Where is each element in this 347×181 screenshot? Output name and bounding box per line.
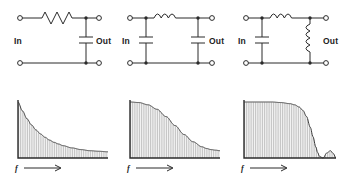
graph-rc-lowpass-response: f — [0, 92, 116, 181]
inductor-icon — [154, 14, 176, 18]
hatch-fill — [131, 102, 219, 158]
circuit-pi-lc-filter: In Out — [116, 0, 232, 90]
resistor-icon — [42, 12, 76, 24]
inductor-icon-series — [270, 14, 292, 18]
graph-pi-lc-response: f — [116, 92, 232, 181]
response-curve — [130, 102, 220, 151]
output-label: Out — [323, 36, 338, 46]
input-terminal-top — [128, 16, 133, 21]
circuit-lc-shunt-inductor: In Out — [232, 0, 347, 90]
axes — [130, 100, 220, 158]
input-label: In — [122, 36, 130, 46]
input-label: In — [14, 36, 22, 46]
input-terminal-top — [244, 16, 249, 21]
hatch-fill — [245, 102, 335, 158]
circuit-rc-lowpass: In Out — [0, 0, 116, 90]
frequency-axis-label: f — [15, 164, 19, 173]
output-terminal-top — [210, 16, 215, 21]
output-terminal-top — [97, 16, 102, 21]
input-terminal-bottom — [128, 61, 133, 66]
output-label: Out — [96, 36, 111, 46]
input-terminal-bottom — [244, 61, 249, 66]
input-terminal-bottom — [18, 61, 23, 66]
output-label: Out — [209, 36, 224, 46]
output-terminal-bottom — [210, 61, 215, 66]
axes — [244, 100, 336, 158]
inductor-icon-shunt — [306, 24, 310, 52]
response-curve — [244, 102, 336, 158]
input-terminal-top — [18, 16, 23, 21]
hatch-fill — [19, 103, 107, 158]
response-curve — [18, 102, 108, 152]
axes — [18, 100, 108, 158]
output-terminal-bottom — [324, 61, 329, 66]
output-terminal-top — [324, 16, 329, 21]
frequency-axis-label: f — [127, 164, 131, 173]
output-terminal-bottom — [97, 61, 102, 66]
graph-lc-sharp-cutoff-response: f — [232, 92, 347, 181]
input-label: In — [238, 36, 246, 46]
frequency-axis-label: f — [241, 164, 245, 173]
filter-response-figure: In Out — [0, 0, 347, 181]
